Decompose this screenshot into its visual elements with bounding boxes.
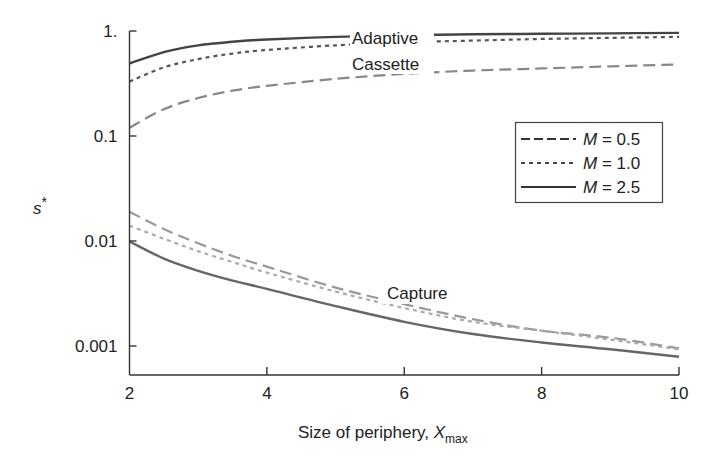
annotation-capture: Capture [387, 284, 447, 303]
annotation-cassette: Cassette [352, 55, 419, 74]
legend: M = 0.5 M = 1.0 M = 2.5 [516, 123, 663, 203]
y-tick-label: 1. [103, 22, 117, 41]
legend-label-m-0-5: M = 0.5 [583, 130, 640, 149]
x-tick-label: 2 [125, 384, 134, 403]
annotation-adaptive: Adaptive [352, 29, 418, 48]
y-ticks: 1.0.10.010.001 [75, 22, 137, 356]
x-ticks: 246810 [125, 367, 689, 403]
x-tick-label: 10 [670, 384, 689, 403]
x-tick-label: 6 [400, 384, 409, 403]
x-tick-label: 8 [537, 384, 546, 403]
y-axis-title: s* [33, 194, 48, 218]
y-tick-label: 0.01 [84, 232, 117, 251]
x-tick-label: 4 [262, 384, 271, 403]
chart: 1.0.10.010.001 246810 Adaptive Cassette … [0, 0, 717, 461]
y-tick-label: 0.1 [94, 127, 118, 146]
legend-label-m-2-5: M = 2.5 [583, 178, 640, 197]
y-tick-label: 0.001 [75, 337, 118, 356]
legend-label-m-1-0: M = 1.0 [583, 154, 640, 173]
series-line-3 [130, 212, 680, 349]
x-axis-title: Size of periphery, Xmax [298, 423, 468, 446]
